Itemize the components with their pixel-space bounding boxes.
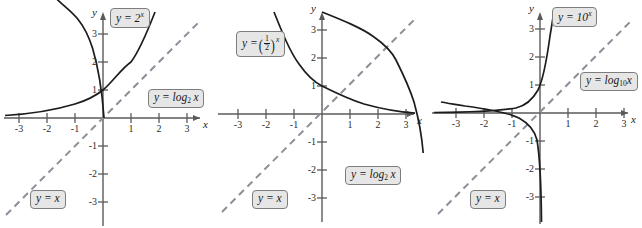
label-logarithm-base-2-base: 2 [187,96,191,105]
label-logarithm-base-10-arg: x [627,74,632,86]
y-tick-2: 2 [85,56,97,67]
label-logarithm-base-2-arg: x [193,91,198,103]
x-axis-letter: x [631,113,636,125]
label-exponential-base-10-text: y = 10 [558,11,588,23]
x-tick-neg3: -3 [230,119,246,130]
x-tick-neg3: -3 [11,123,27,134]
y-tick-3: 3 [304,24,316,35]
x-tick-2: 2 [371,119,385,130]
x-axis-letter: x [203,118,208,130]
y-tick-neg3: -3 [80,196,97,207]
y-axis-arrow [537,12,543,20]
y-tick-neg2: -2 [517,163,534,174]
x-tick-2: 2 [152,123,166,134]
y-tick-2: 2 [304,52,316,63]
label-identity-3: y = x [470,190,506,209]
y-tick-neg3: -3 [299,192,316,203]
label-identity-2: y = x [252,190,288,209]
label-identity-1: y = x [30,190,66,209]
x-axis-arrow [193,115,200,121]
panel-base-10: x y -3 -2 -1 1 2 3 3 2 1 -1 -2 -3 y = 10… [428,0,642,228]
y-axis-letter: y [529,2,534,14]
label-exponential-base-2-exponent: x [140,10,143,19]
x-tick-1: 1 [124,123,138,134]
fraction-denominator: 2 [264,43,270,52]
x-tick-neg2: -2 [39,123,55,134]
y-tick-2: 2 [522,51,534,62]
x-tick-neg2: -2 [476,118,492,129]
y-tick-neg3: -3 [517,191,534,202]
fraction-one-half: 12 [264,35,270,52]
x-tick-2: 2 [589,118,603,129]
identity-line [438,19,633,214]
label-exponential-base-2: y = 2x [110,8,150,28]
label-exponential-base-10: y = 10x [552,7,597,27]
y-tick-3: 3 [522,23,534,34]
label-exponential-base-one-half-exponent: x [276,35,279,44]
panel-base-one-half: x y -3 -2 -1 1 2 3 3 2 1 -1 -2 -3 y =(12… [214,0,428,228]
x-tick-3: 3 [617,118,631,129]
y-tick-3: 3 [85,28,97,39]
label-logarithm-base-10-prefix: y = log [586,74,619,86]
left-paren: ( [259,40,263,52]
label-logarithm-base-10-base: 10 [619,79,627,88]
x-tick-3: 3 [180,123,194,134]
x-axis-letter: x [417,114,422,126]
label-logarithm-base-one-half-arg: x [390,168,395,180]
label-exponential-base-one-half-prefix: y = [242,37,258,49]
right-paren: ) [271,40,275,52]
exponential-curve [274,12,415,113]
label-exponential-base-2-text: y = 2 [116,12,140,24]
logarithm-curve [322,12,423,153]
y-tick-neg1: -1 [299,136,316,147]
label-exponential-base-one-half: y =(12)x [236,31,285,57]
exponential-curve [434,12,554,113]
x-tick-1: 1 [561,118,575,129]
exponential-logarithm-figure: x y -3 -2 -1 1 2 3 3 2 1 -1 -2 -3 y = 2x… [0,0,642,228]
y-axis-letter: y [311,2,316,14]
label-logarithm-base-one-half-base: 2 [384,173,388,182]
x-tick-neg1: -1 [67,123,83,134]
label-logarithm-base-2: y = log2 x [148,89,204,108]
label-logarithm-base-10: y = log10x [580,72,638,91]
y-tick-1: 1 [304,80,316,91]
y-tick-neg1: -1 [517,135,534,146]
y-tick-neg2: -2 [80,168,97,179]
y-tick-neg2: -2 [299,164,316,175]
x-tick-3: 3 [399,119,413,130]
label-exponential-base-10-exponent: x [588,9,591,18]
x-tick-neg1: -1 [286,119,302,130]
x-tick-1: 1 [343,119,357,130]
panel-base-10-plot [428,0,642,228]
y-tick-neg1: -1 [80,140,97,151]
y-tick-1: 1 [85,84,97,95]
y-axis-arrow [100,12,106,20]
fraction-numerator: 1 [264,35,270,43]
x-tick-neg1: -1 [504,118,520,129]
x-tick-neg3: -3 [448,118,464,129]
y-tick-1: 1 [522,79,534,90]
label-logarithm-base-one-half-prefix: y = log [351,168,384,180]
label-logarithm-base-one-half: y = log2 x [345,166,401,185]
label-logarithm-base-2-prefix: y = log [154,91,187,103]
y-axis-letter: y [92,6,97,18]
panel-base-2: x y -3 -2 -1 1 2 3 3 2 1 -1 -2 -3 y = 2x… [0,0,214,228]
x-tick-neg2: -2 [258,119,274,130]
